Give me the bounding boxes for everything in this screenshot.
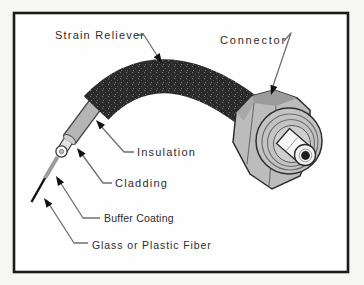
label-connector: Connector [220,34,287,46]
fiber-core-dot [59,149,63,153]
fiber-bore-hole [301,151,310,160]
fiber-cable-diagram: Strain Reliever Connector Insulation Cla… [0,0,364,285]
label-buffer-coating: Buffer Coating [104,212,174,224]
label-insulation: Insulation [137,146,196,158]
label-glass-fiber: Glass or Plastic Fiber [92,239,212,251]
label-cladding: Cladding [115,177,168,189]
figure-panel: Strain Reliever Connector Insulation Cla… [0,0,364,285]
label-strain-reliever: Strain Reliever [55,29,145,41]
